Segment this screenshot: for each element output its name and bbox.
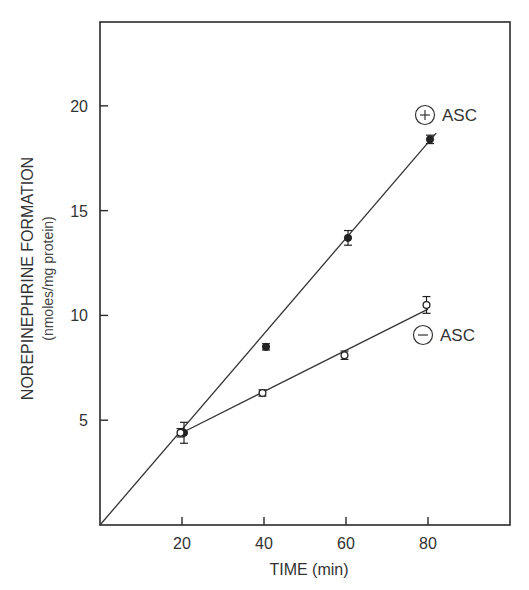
y-tick-label: 20 bbox=[70, 98, 88, 115]
x-tick-label: 80 bbox=[419, 535, 437, 552]
y-axis-units-label: (nmoles/mg protein) bbox=[40, 216, 56, 341]
marker-open bbox=[341, 352, 348, 359]
marker-filled bbox=[426, 136, 433, 143]
marker-filled bbox=[262, 343, 269, 350]
x-axis-label: TIME (min) bbox=[269, 561, 348, 578]
legend-plus-asc: ASC bbox=[416, 106, 477, 126]
fit-lines bbox=[100, 133, 436, 525]
plot-border bbox=[100, 22, 510, 525]
y-axis-ticks: 5101520 bbox=[70, 98, 108, 429]
x-tick-label: 20 bbox=[173, 535, 191, 552]
y-tick-label: 5 bbox=[79, 412, 88, 429]
y-tick-label: 15 bbox=[70, 203, 88, 220]
x-tick-label: 60 bbox=[337, 535, 355, 552]
fit-line-minus-asc bbox=[182, 309, 428, 433]
fit-line-plus-asc bbox=[100, 133, 436, 525]
marker-filled bbox=[344, 234, 351, 241]
plot-frame bbox=[100, 22, 510, 525]
legend-label: ASC bbox=[442, 106, 477, 125]
marker-open bbox=[423, 302, 430, 309]
chart: 5101520 20406080 ASCASC NOREPINEPHRINE F… bbox=[0, 0, 529, 590]
point-plus-asc bbox=[426, 135, 434, 143]
legend-minus-asc: ASC bbox=[414, 326, 475, 346]
legend-label: ASC bbox=[440, 326, 475, 345]
x-axis-ticks: 20406080 bbox=[173, 517, 437, 552]
x-tick-label: 40 bbox=[255, 535, 273, 552]
point-minus-asc bbox=[259, 390, 267, 397]
marker-open bbox=[177, 429, 184, 436]
y-axis-label: NOREPINEPHRINE FORMATION bbox=[19, 157, 36, 400]
point-plus-asc bbox=[262, 343, 270, 350]
legend-annotations: ASCASC bbox=[414, 106, 477, 346]
y-tick-label: 10 bbox=[70, 307, 88, 324]
marker-open bbox=[259, 390, 266, 397]
